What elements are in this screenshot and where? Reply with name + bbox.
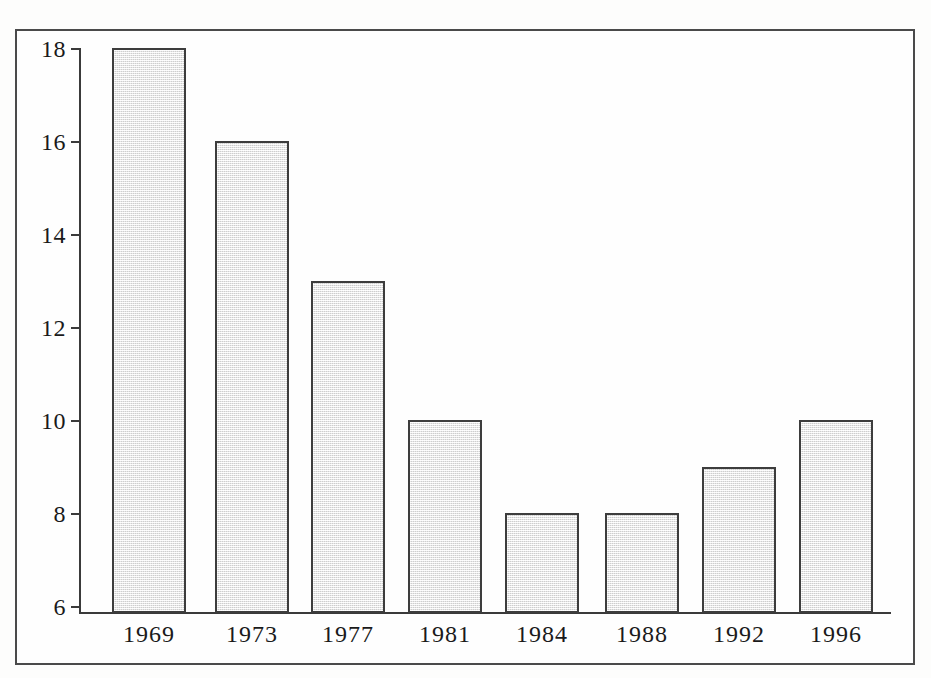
y-axis-label-10: 10 <box>32 409 66 433</box>
bar-1984[interactable] <box>505 513 579 613</box>
y-tick-mark <box>71 141 80 143</box>
x-axis-label-1988: 1988 <box>597 622 687 646</box>
x-axis-label-1992: 1992 <box>694 622 784 646</box>
bar-1996[interactable] <box>799 420 873 613</box>
y-tick-mark <box>71 327 80 329</box>
figure: 18 16 14 12 10 8 6 1969 1973 1977 <box>0 0 931 678</box>
y-axis-label-8: 8 <box>32 502 66 526</box>
x-axis-label-1977: 1977 <box>303 622 393 646</box>
y-axis-label-18: 18 <box>32 37 66 61</box>
y-axis-line <box>79 48 81 614</box>
bar-1981[interactable] <box>408 420 482 613</box>
bar-1969[interactable] <box>112 48 186 613</box>
x-axis-label-1981: 1981 <box>400 622 490 646</box>
y-tick-mark <box>71 606 80 608</box>
y-tick-mark <box>71 48 80 50</box>
bar-1988[interactable] <box>605 513 679 613</box>
y-tick-mark <box>71 513 80 515</box>
bar-1992[interactable] <box>702 467 776 613</box>
y-tick-mark <box>71 234 80 236</box>
x-axis-label-1969: 1969 <box>104 622 194 646</box>
bar-1977[interactable] <box>311 281 385 613</box>
y-tick-mark <box>71 420 80 422</box>
plot-area: 18 16 14 12 10 8 6 1969 1973 1977 <box>0 0 931 678</box>
x-axis-label-1973: 1973 <box>207 622 297 646</box>
y-axis-label-6: 6 <box>32 595 66 619</box>
x-axis-label-1996: 1996 <box>791 622 881 646</box>
y-axis-label-16: 16 <box>32 130 66 154</box>
y-axis-label-14: 14 <box>32 223 66 247</box>
y-axis-label-12: 12 <box>32 316 66 340</box>
x-axis-label-1984: 1984 <box>497 622 587 646</box>
bar-1973[interactable] <box>215 141 289 613</box>
